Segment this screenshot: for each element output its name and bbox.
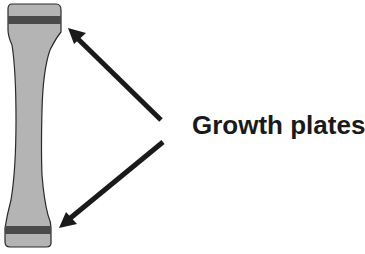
arrow-to-upper-plate	[68, 28, 161, 120]
long-bone	[5, 4, 61, 247]
upper-growth-plate	[8, 16, 61, 24]
bone-shape	[5, 4, 61, 247]
growth-plates-label: Growth plates	[192, 110, 365, 141]
arrow-to-lower-plate	[59, 142, 163, 228]
lower-growth-plate	[5, 226, 51, 234]
